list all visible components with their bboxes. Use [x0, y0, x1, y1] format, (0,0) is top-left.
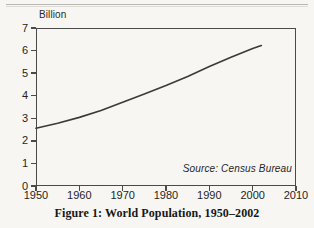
x-tick-label: 1990 — [189, 190, 229, 201]
y-tick-label: 1 — [6, 158, 28, 169]
y-tick-label: 3 — [6, 113, 28, 124]
figure-page: Billion 01234567 19501960197019801990200… — [0, 0, 314, 228]
y-tick-label: 5 — [6, 68, 28, 79]
y-tick-label: 4 — [6, 90, 28, 101]
y-tick-label: 6 — [6, 45, 28, 56]
x-tick-label: 2010 — [276, 190, 314, 201]
x-tick-label: 2000 — [233, 190, 273, 201]
y-tick-label: 7 — [6, 23, 28, 34]
x-tick-label: 1960 — [59, 190, 99, 201]
y-axis-unit-label: Billion — [39, 9, 66, 21]
x-tick-label: 1980 — [146, 190, 186, 201]
figure-caption: Figure 1: World Population, 1950–2002 — [0, 206, 314, 220]
x-tick-label: 1970 — [103, 190, 143, 201]
y-tick-label: 2 — [6, 135, 28, 146]
x-tick-label: 1950 — [16, 190, 56, 201]
world-population-chart: Billion 01234567 19501960197019801990200… — [0, 0, 314, 228]
source-annotation: Source: Census Bureau — [183, 163, 292, 175]
